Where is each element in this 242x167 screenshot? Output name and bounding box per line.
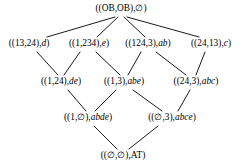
node-pair-part: ((1,3), — [104, 76, 127, 86]
diagram-edge — [129, 126, 158, 149]
lattice-node-n6: ((1,3),abe) — [102, 76, 145, 87]
node-close-paren: ) — [143, 3, 146, 13]
diagram-edge — [127, 17, 199, 37]
node-pair-part: ((13,24), — [9, 38, 42, 48]
lattice-node-n1: ((13,24),d) — [7, 38, 51, 49]
node-close-paren: ) — [141, 76, 144, 86]
node-close-paren: ) — [168, 38, 171, 48]
lattice-node-n5: ((1,24),de) — [39, 76, 82, 87]
node-tail-part: abce — [175, 112, 193, 122]
node-pair-part: ((∅,3), — [148, 112, 175, 122]
hasse-diagram-figure: ((OB,OB),∅)((13,24),d)((1,234),e)((124,3… — [0, 0, 242, 167]
node-tail-part: abe — [127, 76, 141, 86]
lattice-node-n0: ((OB,OB),∅) — [94, 3, 148, 14]
node-close-paren: ) — [109, 112, 112, 122]
node-pair-part: ((∅,∅), — [101, 150, 131, 160]
node-tail-part: ab — [158, 38, 167, 48]
node-tail-part: abc — [202, 76, 216, 86]
diagram-edge — [196, 52, 205, 75]
node-close-paren: ) — [106, 38, 109, 48]
diagram-edge — [37, 52, 58, 75]
node-tail-part: abde — [91, 112, 109, 122]
diagram-edge — [178, 90, 190, 111]
node-tail-part: ∅ — [135, 3, 143, 13]
lattice-node-n8: ((1,∅),abde) — [62, 112, 113, 123]
diagram-edge — [133, 90, 162, 111]
lattice-node-n10: ((∅,∅),AT) — [99, 150, 147, 161]
diagram-edge — [156, 52, 186, 75]
lattice-node-n3: ((124,3),ab) — [124, 38, 172, 49]
node-tail-part: AT — [131, 150, 142, 160]
diagram-edge — [95, 90, 116, 111]
node-close-paren: ) — [228, 38, 231, 48]
node-pair-part: ((1,∅), — [64, 112, 91, 122]
node-pair-part: ((OB,OB), — [95, 3, 135, 13]
diagram-edge — [68, 90, 86, 111]
node-pair-part: ((1,24), — [41, 76, 69, 86]
node-pair-part: ((1,234), — [69, 38, 102, 48]
lattice-node-n2: ((1,234),e) — [67, 38, 110, 49]
diagram-edge — [94, 126, 117, 149]
diagram-edge — [96, 52, 120, 75]
lattice-node-n4: ((24,13),c) — [189, 38, 232, 49]
node-close-paren: ) — [215, 76, 218, 86]
lattice-node-n9: ((∅,3),abce) — [147, 112, 198, 123]
diagram-edge — [47, 17, 115, 37]
node-pair-part: ((24,13), — [191, 38, 224, 48]
diagram-edge — [97, 17, 118, 37]
node-close-paren: ) — [193, 112, 196, 122]
node-pair-part: ((24,3), — [174, 76, 202, 86]
lattice-node-n7: ((24,3),abc) — [172, 76, 220, 87]
diagram-edge — [128, 52, 141, 75]
diagram-edge — [64, 52, 80, 75]
node-close-paren: ) — [142, 150, 145, 160]
node-close-paren: ) — [46, 38, 49, 48]
node-close-paren: ) — [78, 76, 81, 86]
diagram-edge — [124, 17, 145, 37]
node-pair-part: ((124,3), — [125, 38, 158, 48]
